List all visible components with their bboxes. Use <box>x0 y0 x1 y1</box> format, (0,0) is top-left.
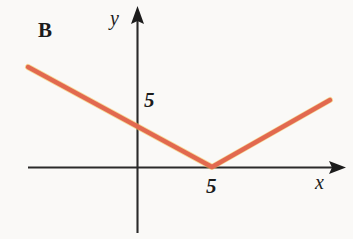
x-axis-tick-label-5: 5 <box>206 176 217 197</box>
graph-canvas <box>0 0 353 239</box>
panel-label-b: B <box>38 20 53 41</box>
x-axis-label: x <box>315 172 324 192</box>
y-axis-tick-label-5: 5 <box>144 90 155 111</box>
curve-underlay <box>28 67 330 167</box>
graph-figure: B y x 5 5 <box>0 0 353 239</box>
y-axis-label: y <box>110 8 119 28</box>
